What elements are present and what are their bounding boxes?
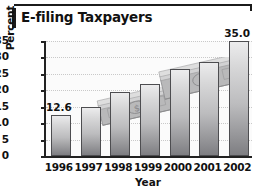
bar-2000 — [170, 69, 190, 156]
header-rule-end-cap — [250, 4, 252, 11]
header-rule — [14, 4, 252, 6]
chart-title: E-filing Taxpayers — [21, 9, 152, 25]
plot-area: $ $ — [44, 41, 252, 158]
y-tick-label: 30 — [0, 50, 9, 62]
bar-1998 — [110, 92, 130, 156]
bar-1996 — [51, 115, 71, 156]
bar-2001 — [199, 62, 219, 156]
y-tick-label: 10 — [0, 116, 9, 128]
y-tick-label: 25 — [0, 67, 9, 79]
bar-value-label-1996: 12.6 — [39, 101, 79, 113]
bar-1999 — [140, 84, 160, 156]
gridline — [46, 57, 252, 58]
y-tick-label: 0 — [0, 149, 9, 161]
x-axis-label: Year — [44, 176, 252, 188]
y-tick-label: 15 — [0, 100, 9, 112]
y-tick-label: 35 — [0, 34, 9, 46]
gridline — [46, 74, 252, 75]
bar-1997 — [81, 107, 101, 156]
bar-value-label-2002: 35.0 — [217, 27, 257, 39]
bar-2002 — [229, 41, 249, 156]
chart-figure: E-filing Taxpayers Percent Year 35302520… — [0, 0, 258, 191]
y-tick-label: 20 — [0, 83, 9, 95]
y-tick-label: 5 — [0, 133, 9, 145]
x-tick-label-2002: 2002 — [217, 161, 257, 173]
gridline — [46, 41, 252, 42]
